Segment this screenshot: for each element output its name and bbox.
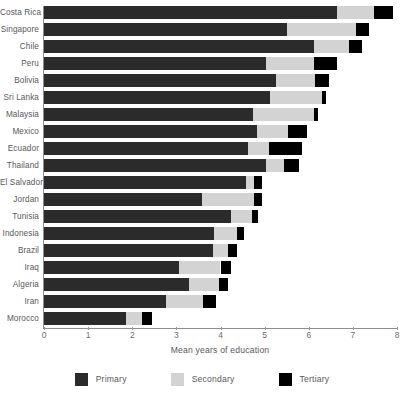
category-label: Indonesia [0,227,39,240]
bar-segment-secondary [266,57,314,70]
category-label: Tunisia [0,210,39,223]
category-label: Iraq [0,261,39,274]
bar-row [44,23,397,36]
legend-swatch-icon [171,373,184,386]
bar-segment-primary [44,261,179,274]
category-label: Chile [0,40,39,53]
bar-segment-secondary [257,125,288,138]
x-tick-mark [265,327,266,330]
bar-row [44,227,397,240]
legend-label: Tertiary [300,374,330,384]
bar-segment-tertiary [237,227,244,240]
bar-row [44,210,397,223]
category-axis-labels: Costa RicaSingaporeChilePeruBoliviaSri L… [0,6,39,328]
bar-row [44,6,397,19]
bar-row [44,40,397,53]
bar-segment-primary [44,6,337,19]
category-label: Thailand [0,159,39,172]
bar-segment-secondary [270,91,322,104]
bar-segment-primary [44,295,166,308]
x-tick-label: 4 [211,330,231,340]
bar-segment-tertiary [221,261,231,274]
bar-segment-primary [44,108,253,121]
legend-item-secondary[interactable]: Secondary [171,373,235,386]
bar-segment-primary [44,244,213,257]
bar-segment-secondary [231,210,252,223]
bar-segment-secondary [166,295,203,308]
x-tick-mark [397,327,398,330]
x-tick-mark [353,327,354,330]
x-tick-mark [88,327,89,330]
legend-item-primary[interactable]: Primary [75,373,127,386]
category-label: Algeria [0,278,39,291]
bar-row [44,261,397,274]
x-tick-label: 1 [78,330,98,340]
bar-segment-secondary [337,6,374,19]
x-tick-label: 8 [387,330,404,340]
legend-item-tertiary[interactable]: Tertiary [279,373,330,386]
category-label: Ecuador [0,142,39,155]
bar-segment-tertiary [356,23,370,36]
bar-segment-primary [44,312,126,325]
bar-row [44,142,397,155]
bar-segment-tertiary [374,6,392,19]
bar-segment-primary [44,142,248,155]
bar-segment-tertiary [315,74,329,87]
category-label: Malaysia [0,108,39,121]
bar-segment-tertiary [314,108,318,121]
bar-segment-tertiary [314,57,336,70]
bar-segment-tertiary [252,210,258,223]
x-axis-title-text: Mean years of education [171,345,270,355]
bar-segment-primary [44,278,189,291]
x-tick-label: 5 [255,330,275,340]
bar-segment-primary [44,91,270,104]
bar-row [44,278,397,291]
bar-segment-secondary [189,278,219,291]
category-label: Jordan [0,193,39,206]
bar-row [44,193,397,206]
legend-swatch-icon [279,373,292,386]
x-tick-label: 0 [34,330,54,340]
category-label: Sri Lanka [0,91,39,104]
category-label: Singapore [0,23,39,36]
x-tick-label: 2 [122,330,142,340]
bar-segment-secondary [126,312,142,325]
bar-segment-tertiary [349,40,361,53]
bar-segment-primary [44,125,257,138]
bar-segment-primary [44,227,214,240]
chart-legend: PrimarySecondaryTertiary [0,371,404,387]
bar-segment-secondary [179,261,221,274]
bar-segment-tertiary [322,91,326,104]
bar-segment-secondary [314,40,349,53]
bar-segment-secondary [246,176,255,189]
stacked-bar-chart: Costa RicaSingaporeChilePeruBoliviaSri L… [0,0,404,397]
bar-segment-primary [44,159,266,172]
legend-swatch-icon [75,373,88,386]
legend-label: Secondary [192,374,235,384]
bar-segment-tertiary [142,312,152,325]
x-tick-mark [44,327,45,330]
category-label: El Salvador [0,176,39,189]
bar-segment-tertiary [288,125,307,138]
bar-segment-secondary [202,193,254,206]
bar-row [44,244,397,257]
bar-row [44,108,397,121]
category-label: Peru [0,57,39,70]
category-label: Bolivia [0,74,39,87]
category-label: Mexico [0,125,39,138]
bar-segment-tertiary [284,159,298,172]
bar-segment-secondary [276,74,316,87]
bar-segment-primary [44,23,287,36]
bar-segment-tertiary [219,278,228,291]
x-axis-ticks: 012345678 [0,330,404,346]
legend-label: Primary [96,374,127,384]
x-tick-label: 6 [299,330,319,340]
x-axis-title: Mean years of education [0,345,404,355]
plot-area [44,6,397,328]
bar-segment-secondary [248,142,270,155]
bar-segment-secondary [213,244,228,257]
bar-row [44,159,397,172]
category-label: Iran [0,295,39,308]
bar-row [44,91,397,104]
x-tick-mark [176,327,177,330]
